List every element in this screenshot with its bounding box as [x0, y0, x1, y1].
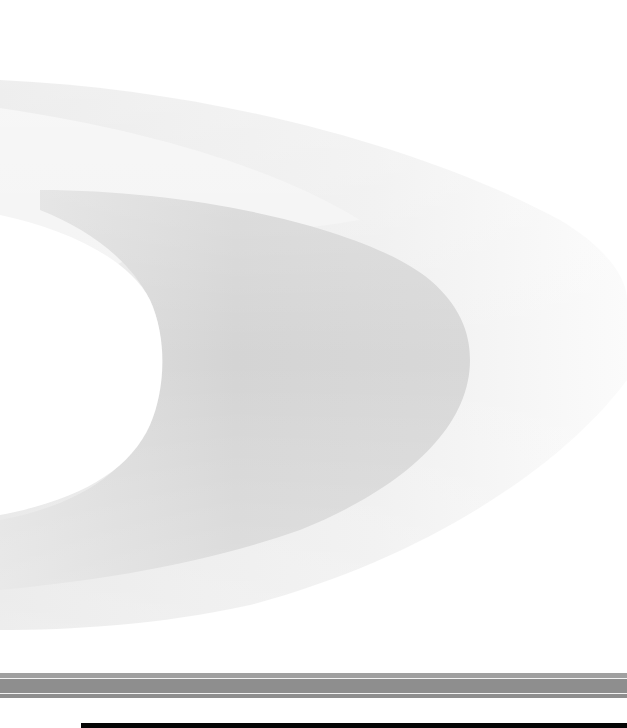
footer-black-bar — [81, 723, 627, 728]
rule-bar-top-stripe — [0, 678, 627, 679]
arc-graphic — [0, 0, 627, 640]
cover-artwork — [0, 0, 627, 640]
horizontal-rule-bar — [0, 673, 627, 698]
rule-bar-bottom-stripe — [0, 693, 627, 694]
